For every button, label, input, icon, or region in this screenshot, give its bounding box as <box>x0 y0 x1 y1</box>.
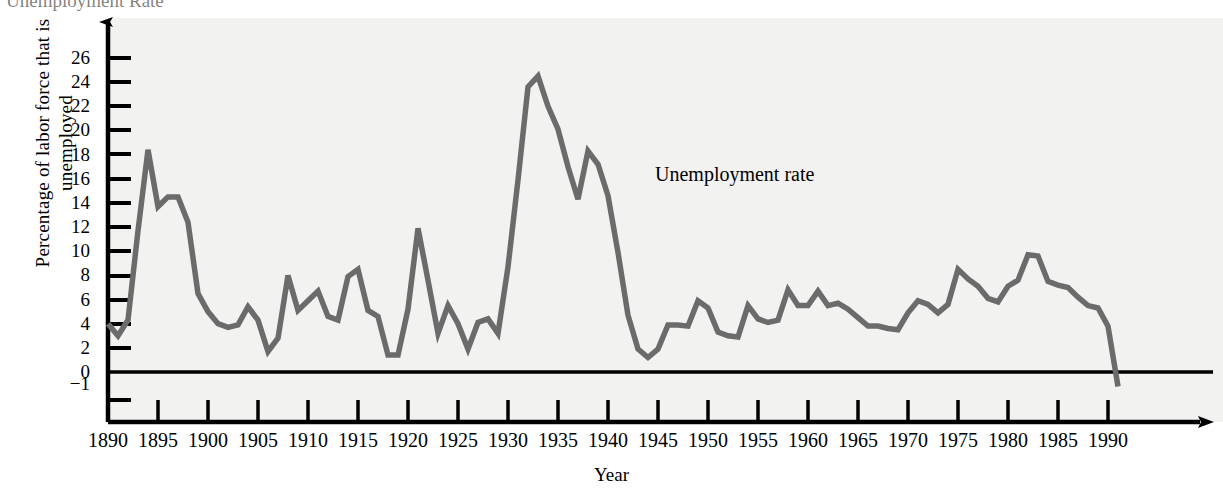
unemployment-rate-chart-figure: Unemployment Rate <box>0 0 1223 490</box>
y-tick-label: 26 <box>46 48 90 67</box>
x-tick-label: 1990 <box>1077 430 1139 450</box>
y-tick-label: 12 <box>46 217 90 236</box>
y-tick-label: 2 <box>46 338 90 357</box>
y-tick-label: 4 <box>46 314 90 333</box>
y-tick-label: 18 <box>46 145 90 164</box>
x-axis-title-text: Year <box>594 464 629 485</box>
x-axis-ticks <box>108 400 1108 422</box>
y-tick-label: 24 <box>46 72 90 91</box>
y-tick-label: 20 <box>46 120 90 139</box>
x-axis-group <box>108 400 1200 422</box>
y-tick-label: 8 <box>46 265 90 284</box>
x-axis-title: Year <box>0 464 1223 486</box>
y-tick-label: 6 <box>46 290 90 309</box>
y-tick-label: 14 <box>46 193 90 212</box>
y-tick-label: 16 <box>46 169 90 188</box>
series-label: Unemployment rate <box>655 164 814 184</box>
y-axis-ticks <box>108 58 131 400</box>
unemployment-rate-line <box>108 76 1118 386</box>
y-tick-label: 22 <box>46 96 90 115</box>
chart-canvas <box>0 0 1223 490</box>
y-tick-label: 10 <box>46 241 90 260</box>
y-axis-group <box>108 22 131 422</box>
y-tick-label: 0 <box>46 362 90 381</box>
